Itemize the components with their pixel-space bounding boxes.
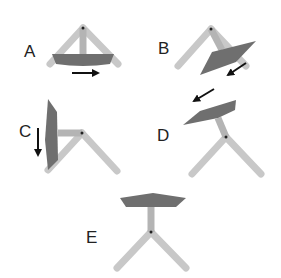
arm-right	[226, 137, 261, 174]
panel-label-e: E	[86, 228, 97, 247]
arm-left	[192, 137, 226, 174]
pivot-dot	[81, 132, 84, 135]
plate	[183, 100, 236, 125]
diagram-canvas: A B C D E	[0, 0, 281, 278]
pivot-dot	[150, 231, 153, 234]
stem	[218, 118, 226, 137]
plate	[52, 54, 114, 66]
stem	[211, 29, 222, 50]
panel-label-a: A	[24, 42, 36, 61]
pivot-dot	[82, 27, 85, 30]
pivot-dot	[210, 28, 213, 31]
pivot-dot	[225, 136, 228, 139]
arm-right	[82, 133, 117, 171]
plate	[120, 193, 186, 207]
panel-d: D	[157, 89, 261, 174]
panel-c: C	[19, 99, 117, 171]
panel-label-d: D	[157, 126, 169, 145]
arm-left	[178, 29, 211, 66]
panel-label-b: B	[158, 39, 169, 58]
arm-right	[151, 232, 186, 268]
plate	[45, 99, 58, 170]
arrow-down-left-icon	[228, 63, 246, 75]
arm-left	[117, 232, 151, 268]
panel-b: B	[158, 28, 256, 76]
panel-e: E	[86, 193, 186, 268]
panel-a: A	[24, 27, 118, 74]
arrow-down-left-icon	[194, 89, 214, 101]
panel-label-c: C	[19, 122, 31, 141]
